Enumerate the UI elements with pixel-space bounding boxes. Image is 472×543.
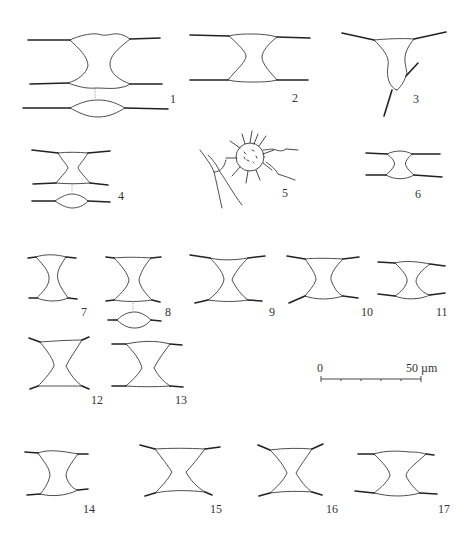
figure-11-label: 11 (436, 305, 448, 319)
figure-4: 4 (32, 150, 124, 208)
figure-2: 2 (190, 34, 310, 105)
scale-bar: 0 50 µm (317, 361, 438, 382)
figure-plate: 1 2 3 4 5 (0, 0, 472, 543)
figure-16: 16 (258, 444, 338, 516)
figure-14-label: 14 (83, 502, 95, 516)
figure-10: 10 (287, 256, 373, 319)
figure-17-label: 17 (438, 502, 450, 516)
figure-11: 11 (378, 261, 448, 319)
scale-bar-end-label: 50 µm (406, 361, 438, 375)
figure-15: 15 (140, 445, 222, 516)
figure-9-label: 9 (269, 305, 275, 319)
figure-5-label: 5 (282, 186, 288, 200)
figure-12: 12 (29, 337, 103, 407)
figure-1: 1 (23, 34, 176, 117)
scale-bar-start-label: 0 (317, 361, 323, 375)
figure-1-label: 1 (170, 92, 176, 106)
figure-2-label: 2 (292, 91, 298, 105)
figure-13-label: 13 (175, 393, 187, 407)
figure-4-label: 4 (118, 189, 124, 203)
figure-7-label: 7 (81, 305, 87, 319)
figure-6: 6 (366, 151, 442, 201)
figure-15-label: 15 (210, 502, 222, 516)
figure-16-label: 16 (326, 502, 338, 516)
figure-8: 8 (106, 257, 171, 328)
figure-8-label: 8 (165, 305, 171, 319)
figure-12-label: 12 (91, 393, 103, 407)
figure-13: 13 (112, 341, 187, 407)
figure-10-label: 10 (361, 305, 373, 319)
figure-6-label: 6 (415, 187, 421, 201)
figure-9: 9 (190, 255, 275, 319)
figure-3-label: 3 (413, 92, 419, 106)
figure-3: 3 (342, 32, 446, 116)
figure-7: 7 (28, 255, 87, 319)
figure-14: 14 (25, 451, 95, 516)
figure-17: 17 (355, 451, 450, 516)
figure-5: 5 (200, 131, 298, 208)
